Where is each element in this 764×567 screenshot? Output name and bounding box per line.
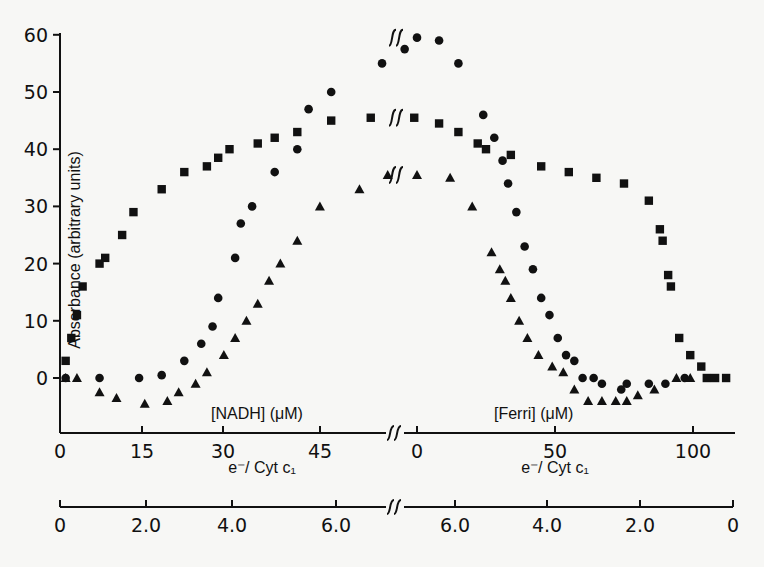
- square-marker: [101, 254, 109, 262]
- triangle-marker: [140, 399, 150, 408]
- circle-marker: [435, 36, 444, 45]
- circle-marker: [589, 374, 598, 383]
- nadh-tick-label: 15: [130, 440, 154, 462]
- triangle-marker: [611, 396, 621, 405]
- square-marker: [565, 168, 573, 176]
- triangle-marker: [500, 276, 510, 285]
- triangle-marker: [275, 259, 285, 268]
- square-marker: [225, 145, 233, 153]
- circle-marker: [598, 379, 607, 388]
- square-marker: [214, 154, 222, 162]
- triangle-marker: [569, 384, 579, 393]
- square-marker: [703, 374, 711, 382]
- triangle-marker: [514, 316, 524, 325]
- ratio-axis-label-right: e⁻/ Cyt c₁: [521, 459, 589, 476]
- circle-marker: [400, 45, 409, 54]
- square-marker: [129, 208, 137, 216]
- circle-marker: [237, 219, 246, 228]
- ratio-tick-label: 0: [727, 514, 739, 536]
- square-marker: [697, 362, 705, 370]
- circle-marker: [208, 322, 217, 331]
- ferri-axis-label: [Ferri] (μM): [494, 405, 573, 422]
- circle-marker: [645, 379, 654, 388]
- triangle-marker: [597, 396, 607, 405]
- circle-marker: [248, 202, 257, 211]
- circle-marker: [545, 311, 554, 320]
- circle-marker: [293, 145, 302, 154]
- circle-marker: [504, 179, 513, 188]
- y-tick-label: 60: [24, 24, 48, 46]
- axis-break-icon: [387, 500, 394, 514]
- triangle-marker: [633, 390, 643, 399]
- square-marker: [293, 128, 301, 136]
- circle-marker: [622, 379, 631, 388]
- square-marker: [61, 357, 69, 365]
- ratio-tick-label: 4.0: [532, 514, 562, 536]
- circle-marker: [529, 265, 538, 274]
- y-axis-title: Absorbance (arbitrary units): [66, 151, 83, 348]
- circle-marker: [157, 371, 166, 380]
- circle-marker: [197, 339, 206, 348]
- square-marker: [158, 185, 166, 193]
- square-marker: [664, 271, 672, 279]
- nadh-axis-label: [NADH] (μM): [211, 405, 303, 422]
- data-points: [61, 30, 731, 408]
- circle-marker: [454, 59, 463, 68]
- circle-marker: [479, 111, 488, 120]
- axes: 0102030405060015304505010002.04.06.06.04…: [24, 24, 739, 536]
- triangle-marker: [495, 264, 505, 273]
- triangle-marker: [292, 236, 302, 245]
- triangle-marker: [174, 387, 184, 396]
- triangle-marker: [506, 293, 516, 302]
- ratio-tick-label: 6.0: [321, 514, 351, 536]
- square-marker: [454, 128, 462, 136]
- nadh-tick-label: 0: [54, 440, 66, 462]
- circle-marker: [490, 133, 499, 142]
- circle-marker: [570, 357, 579, 366]
- triangle-marker: [558, 367, 568, 376]
- circle-marker: [661, 379, 670, 388]
- nadh-tick-label: 45: [308, 440, 332, 462]
- triangle-marker: [202, 367, 212, 376]
- triangle-marker: [230, 333, 240, 342]
- square-marker: [203, 162, 211, 170]
- circle-marker: [537, 294, 546, 303]
- triangle-marker: [191, 379, 201, 388]
- square-marker: [686, 351, 694, 359]
- ferri-tick-label: 0: [411, 440, 423, 462]
- circle-marker: [562, 351, 571, 360]
- square-marker: [410, 114, 418, 122]
- ratio-tick-label: 4.0: [217, 514, 247, 536]
- circle-marker: [135, 374, 144, 383]
- square-marker: [675, 334, 683, 342]
- circle-marker: [512, 208, 521, 217]
- circle-marker: [413, 33, 422, 42]
- square-marker: [254, 139, 262, 147]
- square-marker: [620, 179, 628, 187]
- y-tick-label: 10: [24, 310, 48, 332]
- ratio-tick-label: 0: [54, 514, 66, 536]
- square-marker: [507, 151, 515, 159]
- square-marker: [537, 162, 545, 170]
- square-marker: [711, 374, 719, 382]
- circle-marker: [180, 357, 189, 366]
- square-marker: [435, 119, 443, 127]
- circle-marker: [578, 374, 587, 383]
- square-marker: [658, 237, 666, 245]
- axis-break-icon: [387, 426, 394, 440]
- ratio-tick-label: 2.0: [131, 514, 161, 536]
- ratio-axis-label-left: e⁻/ Cyt c₁: [228, 459, 296, 476]
- circle-marker: [231, 254, 240, 263]
- circle-marker: [553, 334, 562, 343]
- triangle-marker: [445, 173, 455, 182]
- circle-marker: [270, 168, 279, 177]
- triangle-marker: [533, 350, 543, 359]
- y-tick-label: 30: [24, 195, 48, 217]
- triangle-marker: [95, 387, 105, 396]
- triangle-marker: [583, 396, 593, 405]
- square-marker: [592, 174, 600, 182]
- circle-marker: [214, 294, 223, 303]
- square-marker: [722, 374, 730, 382]
- circle-marker: [378, 59, 387, 68]
- triangle-marker: [219, 350, 229, 359]
